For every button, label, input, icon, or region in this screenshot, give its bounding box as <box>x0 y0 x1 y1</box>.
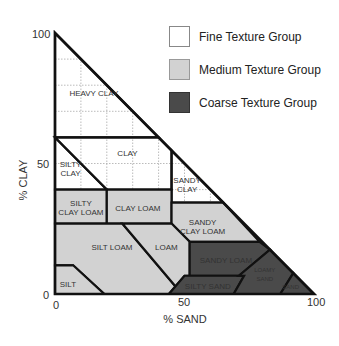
region-label-sand: SAND <box>282 284 299 290</box>
region-label-silty-clay-line-2: CLAY <box>60 169 81 178</box>
region-label-clay-loam: CLAY LOAM <box>115 204 160 213</box>
region-label-sandy-clay-line-1: SANDY <box>173 176 201 185</box>
legend-label-coarse: Coarse Texture Group <box>199 96 317 110</box>
legend-item-coarse: Coarse Texture Group <box>170 93 318 113</box>
legend: Fine Texture Group Medium Texture Group … <box>170 27 322 113</box>
y-tick-50: 50 <box>37 158 49 170</box>
legend-swatch-medium <box>170 60 190 80</box>
region-label-loamy-sand-line-1: LOAMY <box>254 267 275 273</box>
region-label-loam: LOAM <box>155 243 178 252</box>
legend-item-medium: Medium Texture Group <box>170 60 322 80</box>
region-label-silty-sand: SILTY SAND <box>185 282 231 291</box>
region-label-sandy-clay-loam-line-1: SANDY <box>189 218 217 227</box>
legend-swatch-fine <box>170 27 190 47</box>
y-axis-title: % CLAY <box>17 159 29 200</box>
region-label-silty-clay-loam-line-1: SILTY <box>70 199 92 208</box>
region-label-silt: SILT <box>60 280 76 289</box>
region-label-silty-clay-line-1: SILTY <box>60 160 82 169</box>
region-label-sandy-loam: SANDY LOAM <box>200 256 253 265</box>
region-label-sandy-clay-loam-line-2: CLAY LOAM <box>180 227 225 236</box>
x-tick-50: 50 <box>178 296 190 308</box>
legend-label-medium: Medium Texture Group <box>199 63 321 77</box>
legend-label-fine: Fine Texture Group <box>199 30 302 44</box>
region-label-silt-loam: SILT LOAM <box>91 243 132 252</box>
y-tick-100: 100 <box>32 28 50 40</box>
legend-swatch-coarse <box>170 93 190 113</box>
region-label-sandy-clay-line-2: CLAY <box>177 185 198 194</box>
legend-item-fine: Fine Texture Group <box>170 27 302 47</box>
soil-texture-triangle: HEAVY CLAYCLAYSILTYCLAYSANDYCLAYSILTYCLA… <box>0 0 339 346</box>
region-label-heavy-clay: HEAVY CLAY <box>69 89 119 98</box>
x-tick-100: 100 <box>307 296 325 308</box>
region-label-clay: CLAY <box>117 149 138 158</box>
y-tick-0: 0 <box>43 289 49 301</box>
x-tick-0: 0 <box>53 299 59 311</box>
x-axis-title: % SAND <box>163 313 206 325</box>
region-label-loamy-sand-line-2: SAND <box>256 276 273 282</box>
region-label-silty-clay-loam-line-2: CLAY LOAM <box>58 208 103 217</box>
